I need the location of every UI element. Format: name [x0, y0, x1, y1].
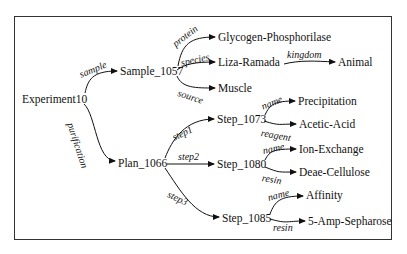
edge-kingdom [284, 61, 335, 64]
node-5-amp-sepharose: 5-Amp-Sepharose [308, 215, 392, 227]
node-acetic-acid: Acetic-Acid [299, 118, 355, 130]
label-kingdom: kingdom [287, 50, 321, 60]
node-ion-exchange: Ion-Exchange [299, 143, 364, 155]
label-step2: step2 [178, 152, 199, 162]
node-precipitation: Precipitation [298, 95, 357, 107]
edge-source [177, 76, 215, 88]
node-experiment10: Experiment10 [22, 93, 87, 105]
node-muscle: Muscle [218, 82, 252, 94]
label-resin-1085: resin [273, 223, 293, 233]
node-deae-cellulose: Deae-Cellulose [299, 166, 370, 178]
node-affinity: Affinity [306, 189, 343, 201]
node-plan-1066: Plan_1066 [118, 157, 167, 169]
node-step-1080: Step_1080 [217, 158, 266, 170]
edge-resin-1080 [265, 167, 296, 172]
edge-reagent [264, 121, 296, 124]
node-step-1085: Step_1085 [222, 212, 271, 224]
node-sample-1057: Sample_1057 [120, 65, 183, 77]
node-liza-ramada: Liza-Ramada [218, 56, 280, 68]
node-glycogen-phosphorilase: Glycogen-Phosphorilase [218, 31, 331, 43]
node-animal: Animal [338, 56, 373, 68]
node-step-1073: Step_1073 [217, 113, 266, 125]
edge-purification [84, 104, 115, 161]
